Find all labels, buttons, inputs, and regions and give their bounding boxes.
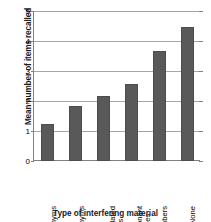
bar: [153, 51, 166, 161]
x-axis-title: Type of interfering material: [0, 209, 211, 218]
y-tick-label: 0: [14, 157, 30, 166]
bar: [125, 84, 138, 161]
y-tick-label: 5: [14, 7, 30, 16]
plot-area: [33, 11, 200, 161]
y-axis-tick-labels: 012345: [14, 11, 30, 161]
y-tick-label: 3: [14, 67, 30, 76]
bar: [181, 27, 194, 161]
x-axis-tick-labels: SynonymsAntonymsUnrelatedwordsConsonants…: [33, 162, 200, 208]
bars-group: [34, 11, 200, 161]
y-tick-label: 1: [14, 127, 30, 136]
y-tick-label: 2: [14, 97, 30, 106]
y-tick-label: 4: [14, 37, 30, 46]
bar: [69, 106, 82, 162]
bar: [41, 124, 54, 162]
bar-chart-figure: Mean number of items recalled 012345 Syn…: [0, 0, 211, 222]
bar: [97, 96, 110, 161]
